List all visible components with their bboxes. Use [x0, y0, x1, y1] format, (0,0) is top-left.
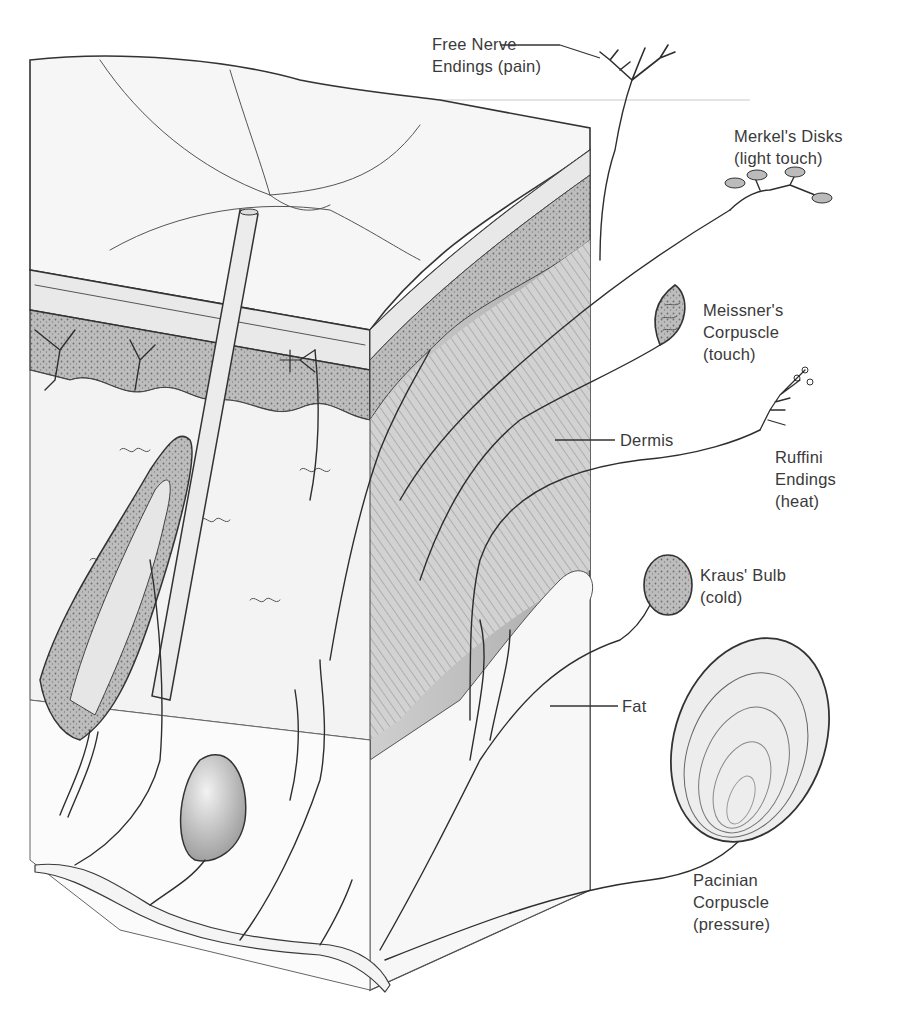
pacinian-corpuscle	[644, 616, 857, 865]
label-pacinian-corpuscle: Pacinian Corpuscle (pressure)	[693, 871, 770, 933]
label-fat: Fat	[622, 697, 647, 715]
label-meissner-corpuscle: Meissner's Corpuscle (touch)	[703, 301, 783, 363]
meissner-corpuscle	[655, 285, 685, 345]
svg-text:Meissner's: Meissner's	[703, 301, 783, 319]
svg-text:(heat): (heat)	[775, 492, 819, 510]
ruffini-endings	[760, 367, 813, 430]
svg-text:Pacinian: Pacinian	[693, 871, 758, 889]
label-free-nerve-endings: Free Nerve Endings (pain)	[432, 35, 541, 75]
svg-text:Kraus' Bulb: Kraus' Bulb	[700, 566, 786, 584]
skin-receptor-diagram: Free Nerve Endings (pain) Merkel's Disks…	[0, 0, 911, 1025]
svg-text:(pressure): (pressure)	[693, 915, 770, 933]
label-ruffini-endings: Ruffini Endings (heat)	[775, 448, 836, 510]
svg-text:(light touch): (light touch)	[734, 149, 823, 167]
label-dermis: Dermis	[620, 431, 673, 449]
svg-text:Ruffini: Ruffini	[775, 448, 823, 466]
svg-text:Fat: Fat	[622, 697, 647, 715]
svg-text:Dermis: Dermis	[620, 431, 673, 449]
svg-text:Free Nerve: Free Nerve	[432, 35, 517, 53]
svg-text:Endings: Endings	[775, 470, 836, 488]
svg-text:Merkel's Disks: Merkel's Disks	[734, 127, 843, 145]
svg-text:Corpuscle: Corpuscle	[703, 323, 779, 341]
svg-text:Endings (pain): Endings (pain)	[432, 57, 541, 75]
svg-text:Corpuscle: Corpuscle	[693, 893, 769, 911]
kraus-bulb	[644, 555, 692, 615]
label-merkel-disks: Merkel's Disks (light touch)	[734, 127, 843, 167]
label-kraus-bulb: Kraus' Bulb (cold)	[700, 566, 786, 606]
svg-text:(cold): (cold)	[700, 588, 742, 606]
svg-text:(touch): (touch)	[703, 345, 756, 363]
